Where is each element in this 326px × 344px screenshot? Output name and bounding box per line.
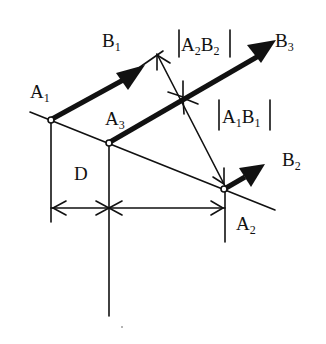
point-a1 [48,117,54,123]
label-b2: B2 [282,149,301,173]
label-b3: B3 [275,30,294,54]
point-a2 [221,186,227,192]
label-a1: A1 [30,81,50,105]
stray-dot [121,326,123,328]
label-abs-a1b1: A1B1 [222,106,260,130]
point-a3 [106,140,112,146]
label-a3: A3 [105,108,125,132]
arrowhead-b1-icon [116,65,145,90]
label-a2: A2 [236,213,256,237]
label-d: D [74,163,88,184]
vector-a2-b2 [226,177,245,188]
label-abs-a2b2: A2B2 [181,34,219,58]
label-b1: B1 [102,30,121,54]
vector-diagram: A1 B1 A3 B3 B2 A2 D A2B2 A1B1 [0,0,326,344]
